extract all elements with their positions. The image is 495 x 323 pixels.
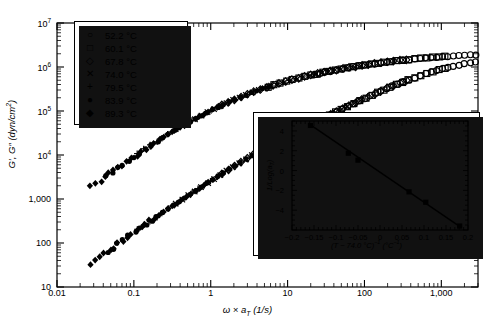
x-tick-label: 1 [208,288,213,298]
legend-label: 60.1 °C [105,43,137,54]
legend-label: 67.8 °C [105,56,137,67]
legend-entry: ◇67.8 °C [75,55,187,68]
inset-y-tick-label: 4 [254,126,284,135]
inset-y-axis-title: 1/Log(aT) [265,145,276,205]
y-tick-label: 104 [37,149,51,161]
filled-circle-icon: ● [75,95,105,105]
y-tick-label: 100 [36,238,51,248]
y-tick-label: 1,000 [28,194,51,204]
x-tick-label: 0.01 [48,288,66,298]
open-diamond-icon: ◇ [75,56,105,66]
inset-plot-box: −0.2−0.15−0.1−0.0500.050.10.150.2420−2−4… [253,112,480,256]
legend-label: 83.9 °C [105,95,137,106]
open-circle-icon: ○ [75,30,105,40]
legend-entry: ○52.2 °C [75,29,187,42]
y-axis-title: G′, G″ (dyn/cm2) [5,99,17,169]
filled-diamond-icon: ◆ [75,108,105,118]
x-tick-label: 1,000 [430,288,453,298]
legend-entry: ●83.9 °C [75,94,187,107]
legend-label: 79.5 °C [105,82,137,93]
x-tick-label: 0.1 [128,288,141,298]
y-tick-label: 105 [37,105,51,117]
x-axis-title: ω × aT (1/s) [0,304,495,317]
legend-box: ○52.2 °C□60.1 °C◇67.8 °C✕74.0 °C+79.5 °C… [74,21,188,125]
plus-icon: + [75,82,105,92]
cross-x-icon: ✕ [75,69,105,79]
inset-fit-line [308,123,461,227]
y-tick-label: 107 [37,17,51,29]
x-tick-label: 10 [283,288,293,298]
y-tick-label: 106 [37,61,51,73]
figure-canvas: G′, G″ (dyn/cm2) ω × aT (1/s) 101001,000… [0,0,495,323]
x-tick-label: 100 [357,288,372,298]
open-square-icon: □ [75,43,105,53]
legend-entry: ◆89.3 °C [75,107,187,120]
legend-entry: □60.1 °C [75,42,187,55]
legend-entry: +79.5 °C [75,81,187,94]
inset-y-tick-label: −4 [254,206,284,215]
legend-label: 74.0 °C [105,69,137,80]
legend-entry: ✕74.0 °C [75,68,187,81]
legend-label: 52.2 °C [105,30,137,41]
inset-x-axis-title: (T − 74.0 °C)−1 (°C−1) [254,239,479,250]
legend-label: 89.3 °C [105,108,137,119]
